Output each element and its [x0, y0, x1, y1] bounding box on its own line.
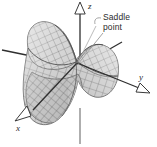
saddle-point-marker	[76, 62, 78, 64]
x-axis-label: x	[16, 124, 20, 133]
saddle-surface-figure: Saddle point z y x	[0, 0, 157, 147]
saddle-point-annotation-label: Saddle point	[103, 13, 130, 32]
surface-shade-right	[76, 36, 124, 106]
y-axis-arrowhead	[136, 83, 150, 93]
leader-hook	[95, 18, 101, 24]
saddle-point-label-line2: point	[103, 23, 130, 33]
z-axis-label: z	[88, 2, 92, 11]
y-axis-label: y	[139, 73, 143, 82]
saddle-surface	[18, 14, 124, 134]
z-axis-arrowhead	[75, 2, 85, 14]
saddle-surface-canvas	[0, 0, 157, 147]
